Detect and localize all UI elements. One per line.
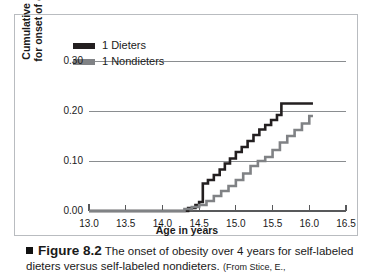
y-tick-label: 0.10 [49,155,83,166]
plot-frame: 1 Dieters 1 Nondieters 0.000.100.200.30 … [14,14,358,236]
legend-item-dieters[interactable]: 1 Dieters [73,39,164,52]
caption-source: (From Stice, E., [223,262,286,272]
legend-label-dieters: 1 Dieters [102,40,146,51]
series-line-nondieters [89,116,313,211]
gridlines [89,61,346,161]
series-line-dieters [89,104,313,212]
caption-figure-label: Figure 8.2 [38,243,102,258]
legend-label-nondieters: 1 Nondieters [102,56,164,67]
legend-item-nondieters[interactable]: 1 Nondieters [73,55,164,68]
x-axis-title: Age in years [0,224,374,236]
figure-caption: Figure 8.2 The onset of obesity over 4 y… [26,243,366,275]
y-tick-label: 0.00 [49,205,83,216]
square-bullet-icon [26,247,33,254]
data-series-layer [89,104,313,212]
y-tick-label: 0.20 [49,105,83,116]
y-axis-title-line-1: Cumulative hazard [20,0,32,78]
legend-swatch-dieters [73,43,95,49]
y-axis-title: Cumulative hazard for onset of obesity [20,0,44,78]
y-tick-label: 0.30 [49,55,83,66]
y-axis-title-line-2: for onset of obesity [32,0,44,78]
chart-legend: 1 Dieters 1 Nondieters [73,39,164,68]
figure-container: 1 Dieters 1 Nondieters 0.000.100.200.30 … [0,0,374,280]
chart-canvas [15,15,357,235]
